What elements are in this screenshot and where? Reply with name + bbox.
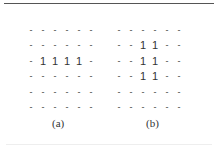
grid-cell: - (85, 23, 97, 38)
grid-cell: - (173, 100, 185, 115)
grid-cell: - (61, 85, 73, 100)
grid-cell: - (125, 23, 137, 38)
grid-cell: - (113, 85, 125, 100)
panel-b-caption: (b) (146, 117, 159, 129)
grid-cell: - (85, 100, 97, 115)
top-rule (4, 3, 214, 4)
grid-cell: 1 (149, 38, 161, 53)
panel-a-caption: (a) (52, 117, 64, 129)
grid-cell: - (49, 69, 61, 84)
grid-cell: - (73, 100, 85, 115)
grid-cell: - (149, 100, 161, 115)
grid-cell: - (61, 69, 73, 84)
grid-cell: - (161, 23, 173, 38)
bottom-rule (6, 144, 212, 145)
grid-cell: - (37, 100, 49, 115)
grid-cell: - (137, 100, 149, 115)
grid-cell: - (73, 23, 85, 38)
grid-cell: - (25, 54, 37, 69)
grid-cell: - (173, 69, 185, 84)
grid-cell: - (161, 69, 173, 84)
grid-cell: 1 (61, 54, 73, 69)
grid-cell: - (161, 100, 173, 115)
grid-cell: - (173, 85, 185, 100)
grid-cell: - (37, 23, 49, 38)
grid-cell: - (125, 85, 137, 100)
grid-cell: - (85, 54, 97, 69)
grid-cell: - (25, 69, 37, 84)
grid-cell: - (125, 38, 137, 53)
grid-cell: 1 (149, 69, 161, 84)
grid-cell: - (85, 69, 97, 84)
grid-cell: - (37, 69, 49, 84)
grid-cell: - (113, 54, 125, 69)
grid-cell: 1 (137, 54, 149, 69)
grid-cell: - (25, 100, 37, 115)
grid-cell: - (113, 100, 125, 115)
grid-cell: - (161, 38, 173, 53)
grid-cell: - (85, 38, 97, 53)
grid-cell: - (173, 38, 185, 53)
grid-cell: - (73, 85, 85, 100)
grid-cell: - (161, 54, 173, 69)
grid-cell: - (125, 100, 137, 115)
grid-cell: - (173, 23, 185, 38)
grid-cell: - (61, 100, 73, 115)
grid-cell: 1 (137, 38, 149, 53)
grid-cell: - (149, 23, 161, 38)
grid-cell: 1 (137, 69, 149, 84)
grid-cell: - (137, 85, 149, 100)
grid-cell: - (161, 85, 173, 100)
grid-cell: 1 (73, 54, 85, 69)
grid-cell: - (25, 38, 37, 53)
grid-cell: - (113, 23, 125, 38)
grid-cell: - (49, 100, 61, 115)
grid-cell: - (113, 38, 125, 53)
grid-cell: - (49, 38, 61, 53)
grid-cell: 1 (37, 54, 49, 69)
grid-cell: - (149, 85, 161, 100)
grid-cell: - (25, 85, 37, 100)
panel-b-grid: --------11----11----11-------------- (113, 23, 185, 115)
grid-cell: - (61, 38, 73, 53)
grid-cell: - (85, 85, 97, 100)
grid-cell: - (25, 23, 37, 38)
grid-cell: - (37, 85, 49, 100)
panel-a-grid: -------------1111------------------- (25, 23, 97, 115)
grid-cell: - (125, 69, 137, 84)
grid-cell: - (137, 23, 149, 38)
grid-cell: - (73, 38, 85, 53)
grid-cell: - (49, 23, 61, 38)
grid-cell: - (61, 23, 73, 38)
grid-cell: - (73, 69, 85, 84)
grid-cell: - (125, 54, 137, 69)
grid-cell: 1 (49, 54, 61, 69)
grid-cell: - (113, 69, 125, 84)
grid-cell: - (49, 85, 61, 100)
grid-cell: 1 (149, 54, 161, 69)
grid-cell: - (173, 54, 185, 69)
grid-cell: - (37, 38, 49, 53)
